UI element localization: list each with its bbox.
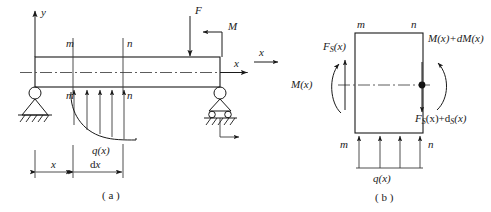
dimension-label-dx: dx (90, 158, 101, 170)
moment-couple (203, 32, 222, 57)
figure-container: y x m n m n F M (0, 0, 491, 212)
section-label-n-top-b: n (411, 18, 417, 30)
moment-right-arc (437, 63, 447, 110)
caption-b: ( b ) (375, 191, 394, 204)
moment-label: M (227, 20, 238, 32)
panel-a: y x m n m n F M (18, 4, 248, 202)
y-axis-label: y (40, 6, 46, 18)
x-axis-label-b: x (258, 46, 264, 58)
section-label-m-bottom: m (66, 89, 74, 101)
roller-support-right (204, 87, 239, 137)
distributed-load-label-a: q(x) (92, 144, 110, 157)
distributed-load-b (356, 136, 423, 168)
section-label-n-bottom-b: n (428, 138, 434, 150)
point-force-label: F (194, 4, 202, 16)
panel-b: x m n m n FS(x) M(x) FS(x)+dS(x) M(x)+dM… (254, 18, 484, 204)
dimension-label-x: x (50, 158, 56, 170)
beam-element-diagram: y x m n m n F M (0, 0, 491, 212)
beam-body (35, 57, 220, 87)
section-label-m-top-b: m (357, 18, 365, 30)
moment-left-arc (332, 64, 341, 113)
element-rectangle (355, 33, 423, 133)
shear-left-label: FS(x) (322, 40, 346, 54)
section-label-m-bottom-b: m (340, 138, 348, 150)
moment-right-label: M(x)+dM(x) (427, 32, 484, 45)
moment-left-label: M(x) (290, 78, 313, 91)
distributed-load-label-b: q(x) (373, 172, 391, 185)
section-label-m-top: m (66, 37, 74, 49)
dimension-lines-a (35, 144, 123, 178)
x-axis-label: x (233, 57, 239, 69)
pin-support-left (18, 87, 52, 122)
section-label-n-bottom: n (127, 89, 133, 101)
section-label-n-top: n (127, 37, 133, 49)
caption-a: ( a ) (102, 189, 120, 202)
